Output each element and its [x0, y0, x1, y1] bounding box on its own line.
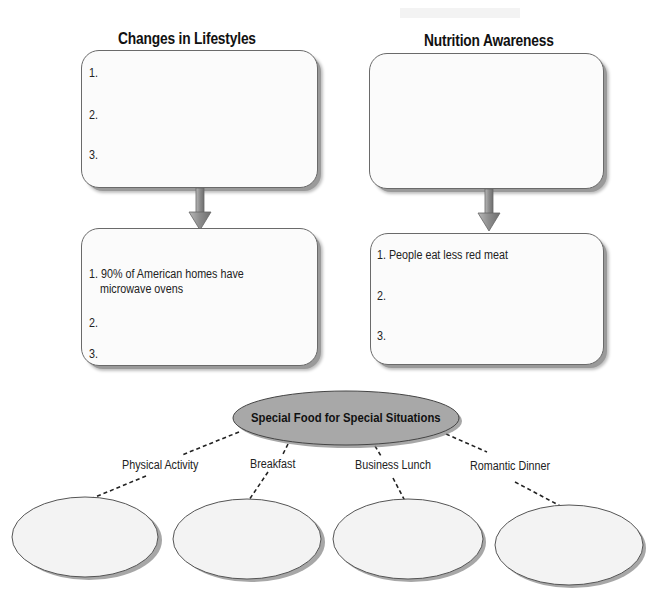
branch-label-business-lunch: Business Lunch: [355, 458, 431, 472]
branch-label-romantic-dinner: Romantic Dinner: [470, 459, 550, 473]
branch-label-physical-activity: Physical Activity: [122, 458, 198, 472]
center-topic-label: Special Food for Special Situations: [251, 410, 441, 425]
romantic-dinner-answer-area[interactable]: [495, 505, 643, 585]
physical-activity-answer-area[interactable]: [12, 497, 158, 577]
business-lunch-answer-area[interactable]: [333, 499, 483, 579]
branch-label-breakfast: Breakfast: [250, 457, 295, 471]
breakfast-answer-area[interactable]: [173, 499, 321, 579]
